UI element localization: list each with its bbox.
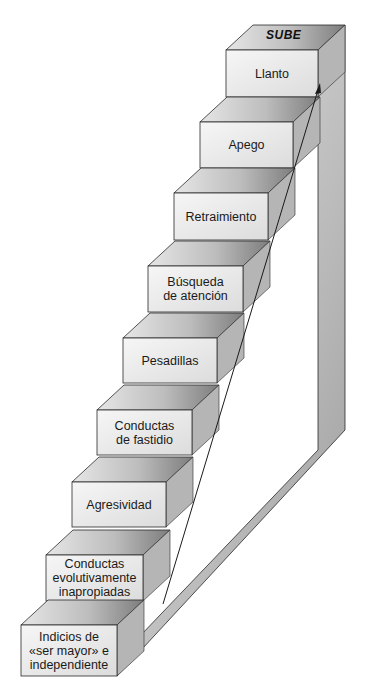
step-label: Llanto	[226, 50, 318, 97]
step-label: Indicios de «ser mayor» e independiente	[21, 625, 117, 676]
step-label: Búsqueda de atención	[148, 266, 243, 312]
staircase-diagram: LlantoApegoRetraimientoBúsqueda de atenc…	[0, 0, 374, 699]
step-label: Conductas de fastidio	[97, 410, 192, 455]
step-label: Pesadillas	[123, 338, 217, 383]
top-label-sube: SUBE	[266, 28, 301, 42]
step-label: Conductas evolutivamente inapropiadas	[46, 555, 143, 601]
step-label: Retraimiento	[174, 193, 268, 240]
step-label: Apego	[200, 122, 293, 168]
step-label: Agresividad	[72, 482, 166, 527]
